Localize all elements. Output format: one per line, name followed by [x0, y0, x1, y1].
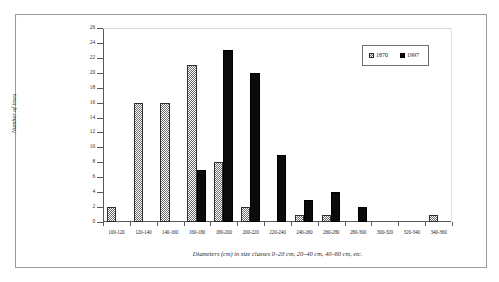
- y-axis-tick-label-wrap: 14: [80, 115, 95, 121]
- x-axis-tick: [398, 222, 399, 226]
- bar-1997-220-240: [277, 155, 286, 222]
- bar-1870-100-120: [107, 207, 116, 222]
- x-axis-tick: [103, 222, 104, 226]
- y-axis-tick-label: 10: [80, 144, 95, 149]
- x-axis-tick: [210, 222, 211, 226]
- y-axis-tick-label-wrap: 8: [80, 159, 95, 165]
- bar-1870-200-220: [241, 207, 250, 222]
- y-axis-tick-label-wrap: 18: [80, 85, 95, 91]
- legend-entry-1870: 1870: [369, 52, 388, 58]
- y-axis-tick-label-wrap: 6: [80, 174, 95, 180]
- x-axis-tick-label: 220-240: [264, 229, 291, 235]
- x-axis-tick: [425, 222, 426, 226]
- x-axis-tick-label: 340-360: [425, 229, 452, 235]
- bar-1870-160-180: [187, 65, 196, 222]
- y-axis-tick-label: 0: [80, 219, 95, 224]
- y-axis-tick-label-wrap: 20: [80, 70, 95, 76]
- x-axis-tick: [371, 222, 372, 226]
- x-axis-tick: [130, 222, 131, 226]
- bar-1997-160-180: [197, 170, 206, 222]
- bar-1870-240-260: [295, 215, 304, 222]
- legend-label-1870: 1870: [376, 52, 388, 58]
- chart-legend: 1870 1997: [362, 45, 429, 66]
- bar-1870-140-160: [160, 103, 169, 222]
- legend-entry-1997: 1997: [400, 52, 419, 58]
- y-axis-tick-label-wrap: 2: [80, 204, 95, 210]
- y-axis-tick-label: 4: [80, 189, 95, 194]
- y-axis-tick-label: 18: [80, 85, 95, 90]
- x-axis-tick: [184, 222, 185, 226]
- y-axis-title: Number of trees: [10, 79, 17, 149]
- x-axis-tick: [237, 222, 238, 226]
- bar-1997-200-220: [250, 73, 259, 222]
- x-axis-tick-label: 280-300: [345, 229, 372, 235]
- bar-1997-180-200: [223, 50, 232, 222]
- x-axis-tick: [291, 222, 292, 226]
- x-axis-tick: [264, 222, 265, 226]
- x-axis-tick-label: 320-340: [398, 229, 425, 235]
- x-axis-tick-label: 300-320: [371, 229, 398, 235]
- y-axis-tick-label: 8: [80, 159, 95, 164]
- x-axis-tick-label: 240-260: [291, 229, 318, 235]
- y-axis-tick-label: 2: [80, 204, 95, 209]
- x-axis-tick: [452, 222, 453, 226]
- y-axis-tick-label-wrap: 24: [80, 40, 95, 46]
- y-axis-tick-label: 20: [80, 70, 95, 75]
- x-axis-tick-label: 180-200: [210, 229, 237, 235]
- y-axis-tick-label: 14: [80, 115, 95, 120]
- y-axis-tick-label: 16: [80, 100, 95, 105]
- y-axis-tick-label-wrap: 0: [80, 219, 95, 225]
- x-axis-tick-label: 120-140: [130, 229, 157, 235]
- bar-1870-120-140: [134, 103, 143, 222]
- x-axis-tick-label: 200-220: [237, 229, 264, 235]
- x-axis-tick-label: 100-120: [103, 229, 130, 235]
- legend-label-1997: 1997: [407, 52, 419, 58]
- y-axis-tick-label: 6: [80, 174, 95, 179]
- histogram-chart: 02468101214161820222426 Number of trees …: [0, 0, 499, 282]
- y-axis-tick-label: 12: [80, 129, 95, 134]
- x-axis-tick: [157, 222, 158, 226]
- y-axis-tick-label-wrap: 22: [80, 55, 95, 61]
- bar-1870-180-200: [214, 162, 223, 222]
- y-axis-tick-label: 24: [80, 40, 95, 45]
- x-axis-caption: Diameters (cm) in size classes 0–20 cm, …: [103, 250, 452, 257]
- y-axis-tick-label-wrap: 10: [80, 144, 95, 150]
- bar-1997-260-280: [331, 192, 340, 222]
- legend-swatch-1870-icon: [369, 53, 374, 58]
- y-axis-tick-label-wrap: 26: [80, 25, 95, 31]
- x-axis-tick: [345, 222, 346, 226]
- y-axis-tick-label-wrap: 12: [80, 129, 95, 135]
- x-axis-tick: [318, 222, 319, 226]
- y-axis-tick-label: 22: [80, 55, 95, 60]
- bar-1870-260-280: [322, 215, 331, 222]
- x-axis-tick-label: 160-180: [184, 229, 211, 235]
- x-axis-tick-label: 260-280: [318, 229, 345, 235]
- x-axis-tick-label: 140-160: [157, 229, 184, 235]
- y-axis-tick-label-wrap: 4: [80, 189, 95, 195]
- bar-1870-340-360: [429, 215, 438, 222]
- y-axis-tick-label-wrap: 16: [80, 100, 95, 106]
- legend-swatch-1997-icon: [400, 53, 405, 58]
- y-axis-tick-label: 26: [80, 25, 95, 30]
- bar-1997-240-260: [304, 200, 313, 222]
- bar-1997-280-300: [358, 207, 367, 222]
